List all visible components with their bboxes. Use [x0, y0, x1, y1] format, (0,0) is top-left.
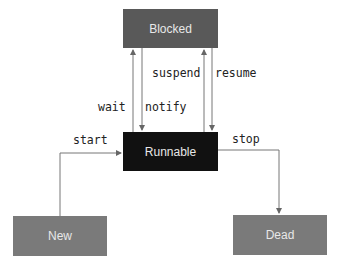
- state-blocked: Blocked: [123, 9, 218, 48]
- transition-label-wait: wait: [98, 100, 126, 114]
- arrow-start: [60, 153, 121, 216]
- transition-label-notify: notify: [145, 100, 187, 114]
- state-runnable: Runnable: [123, 132, 218, 171]
- transition-label-resume: resume: [215, 66, 257, 80]
- transition-label-start: start: [73, 133, 108, 147]
- state-label: New: [48, 229, 72, 243]
- state-label: Runnable: [145, 145, 196, 159]
- state-dead: Dead: [233, 215, 327, 255]
- arrow-stop: [218, 150, 279, 213]
- state-label: Blocked: [149, 22, 192, 36]
- state-new: New: [13, 216, 107, 256]
- transition-label-suspend: suspend: [152, 66, 200, 80]
- state-label: Dead: [266, 228, 295, 242]
- transition-label-stop: stop: [232, 132, 260, 146]
- state-diagram: Blocked Runnable New Dead start wait not…: [0, 0, 337, 266]
